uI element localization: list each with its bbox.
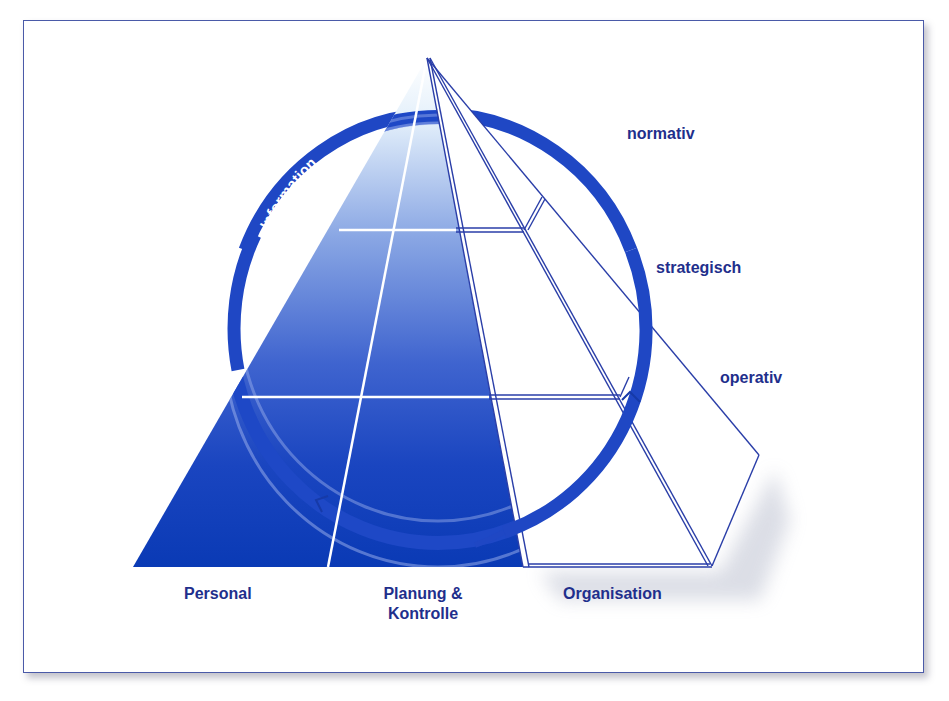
pyramid-diagram: Information [0, 0, 949, 701]
ring-label-information: Information [256, 154, 319, 232]
base-label-planung-line2: Kontrolle [378, 604, 468, 624]
base-label-planung: Planung & Kontrolle [378, 584, 468, 624]
base-label-planung-line1: Planung & [378, 584, 468, 604]
base-label-personal: Personal [184, 584, 252, 604]
level-label-strategisch: strategisch [656, 258, 741, 278]
level-label-operativ: operativ [720, 368, 782, 388]
base-label-organisation: Organisation [563, 584, 662, 604]
level-label-normativ: normativ [627, 124, 695, 144]
